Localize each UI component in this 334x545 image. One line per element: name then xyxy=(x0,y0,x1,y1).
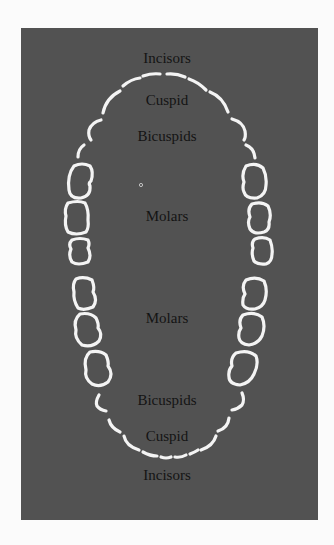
label-lower-molars: Molars xyxy=(0,311,334,326)
lower-molars-right-icon xyxy=(229,278,266,385)
marker-dot-icon xyxy=(139,183,142,186)
label-upper-cuspid: Cuspid xyxy=(0,93,334,108)
label-lower-bicuspids: Bicuspids xyxy=(0,393,334,408)
label-lower-cuspid: Cuspid xyxy=(0,429,334,444)
label-lower-incisors: Incisors xyxy=(0,468,334,483)
lower-molars-left-icon xyxy=(73,278,111,386)
label-upper-incisors: Incisors xyxy=(0,51,334,66)
dental-arch-diagram xyxy=(0,0,334,545)
lower-incisors-icon xyxy=(143,450,198,458)
label-upper-molars: Molars xyxy=(0,209,334,224)
label-upper-bicuspids: Bicuspids xyxy=(0,129,334,144)
upper-incisors-icon xyxy=(123,74,206,90)
